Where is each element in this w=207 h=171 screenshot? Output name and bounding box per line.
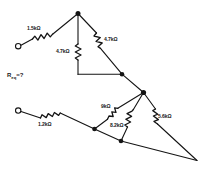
terminal-top-left[interactable] <box>16 44 21 49</box>
label-resistor-8-2k: 8.2kΩ <box>110 123 124 128</box>
wire-topleft-lead-b <box>53 14 78 35</box>
wire-top-diagonal-a <box>78 14 97 34</box>
wire-top-diagonal-b <box>101 48 123 74</box>
wire-bottom-main-a <box>95 129 122 141</box>
resistor-9k-symbol <box>108 108 118 119</box>
resistor-4-7k-vertical-symbol <box>75 44 81 60</box>
wire-9k-lead-b <box>118 93 144 109</box>
label-resistor-4-7k-diagonal: 4.7kΩ <box>104 37 118 42</box>
label-resistor-5-6k: 5.6kΩ <box>158 114 172 119</box>
wire-5-6k-lead-a <box>144 93 156 110</box>
label-resistor-1-2k: 1.2kΩ <box>38 122 52 127</box>
node-top <box>76 11 81 16</box>
label-equivalent-resistance: Req=? <box>7 72 23 80</box>
node-top-right <box>120 72 125 77</box>
wire-bottomleft-lead-b <box>60 113 94 129</box>
wire-bottom-main-b <box>121 141 197 161</box>
wire-9k-lead-a <box>95 119 108 129</box>
label-resistor-4-7k-vertical: 4.7kΩ <box>56 49 70 54</box>
resistor-8-2k-symbol <box>125 110 134 128</box>
node-bottom-mid <box>92 127 97 132</box>
label-resistor-9k: 9kΩ <box>101 104 110 109</box>
resistor-4-7k-diagonal-symbol <box>94 33 102 48</box>
req-question: =? <box>16 72 23 78</box>
wire-topleft-lead-a <box>21 39 33 45</box>
label-resistor-1-5k: 1.5kΩ <box>27 26 41 31</box>
node-hub <box>141 90 146 95</box>
wire-bottomleft-lead-a <box>21 112 41 119</box>
wire-8-2k-lead-a <box>121 127 128 141</box>
resistor-1-2k-symbol <box>41 113 61 119</box>
resistor-1-5k-symbol <box>33 33 53 40</box>
circuit-diagram: 1.5kΩ 4.7kΩ 4.7kΩ 1.2kΩ 9kΩ 8.2kΩ 5.6kΩ … <box>0 0 207 171</box>
terminal-bottom-left[interactable] <box>16 108 21 113</box>
wire-mid-link <box>122 74 144 92</box>
node-bottom-right-mid <box>119 139 124 144</box>
